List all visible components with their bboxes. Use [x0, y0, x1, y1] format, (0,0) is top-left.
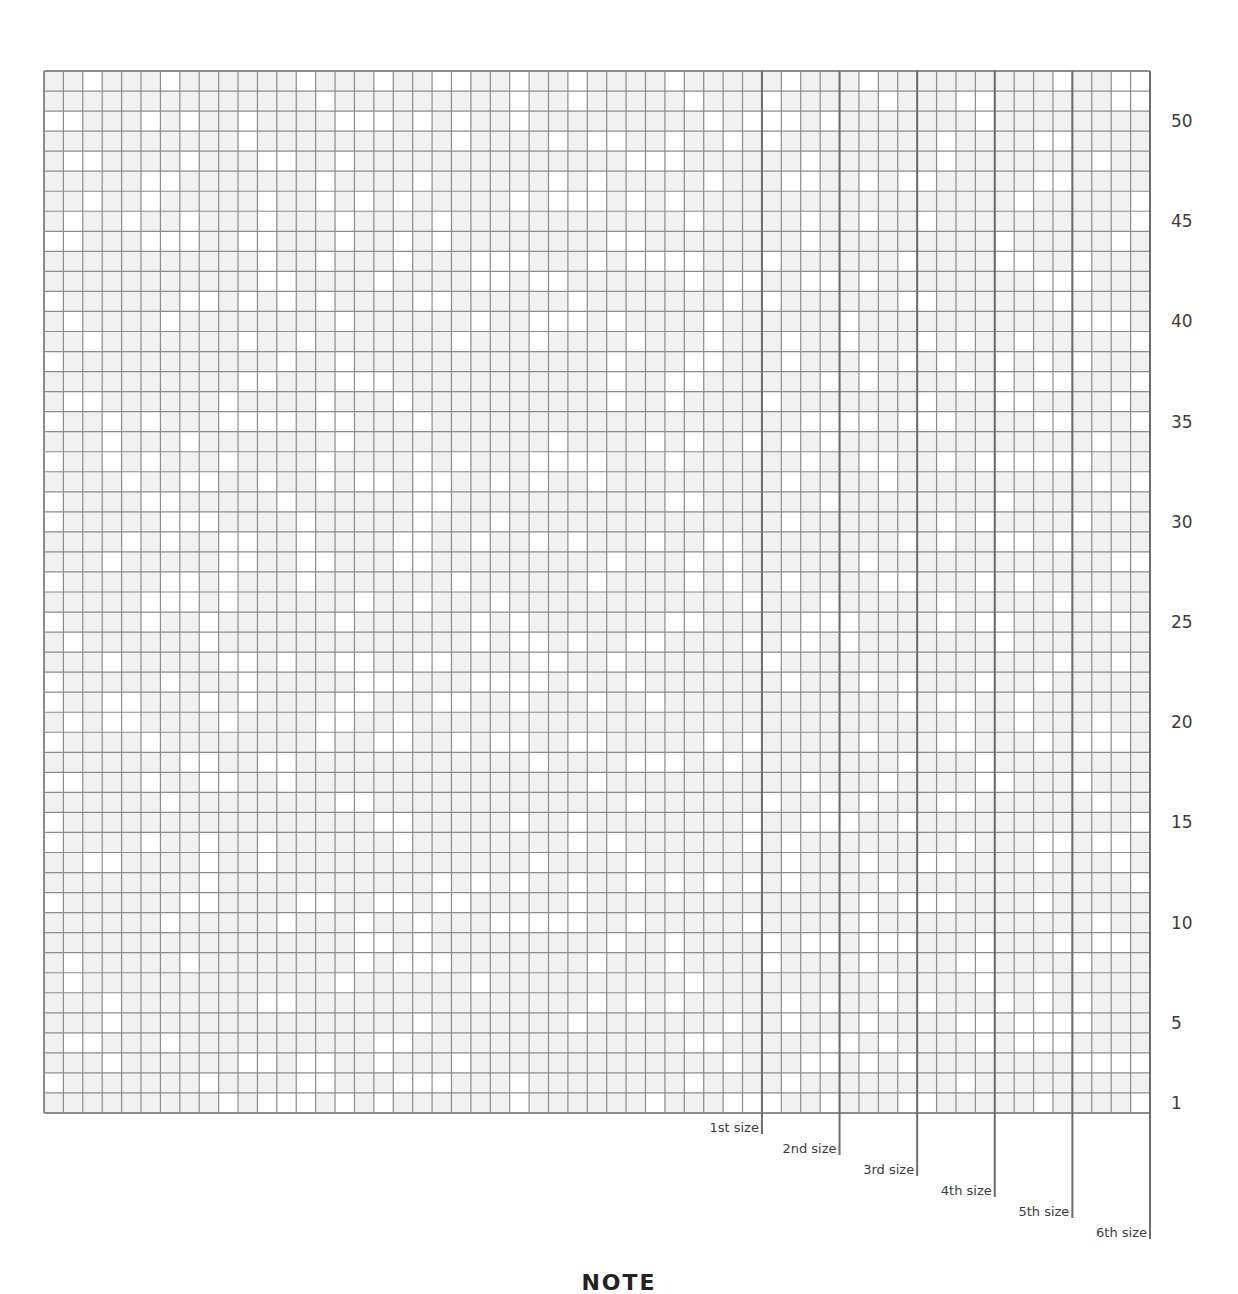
- row-number-label: 50: [1171, 111, 1193, 131]
- row-number-labels: 15101520253035404550: [1171, 111, 1193, 1113]
- size-label: 6th size: [1096, 1225, 1147, 1240]
- row-number-label: 45: [1171, 211, 1193, 231]
- row-number-label: 1: [1171, 1093, 1182, 1113]
- row-number-label: 25: [1171, 612, 1193, 632]
- size-label: 1st size: [709, 1120, 758, 1135]
- row-number-label: 10: [1171, 913, 1193, 933]
- row-number-label: 5: [1171, 1013, 1182, 1033]
- size-label: 4th size: [941, 1183, 992, 1198]
- size-label: 2nd size: [782, 1141, 836, 1156]
- size-label: 3rd size: [863, 1162, 914, 1177]
- row-number-label: 40: [1171, 311, 1193, 331]
- note-heading: NOTE: [0, 1270, 1238, 1294]
- size-label: 5th size: [1018, 1204, 1069, 1219]
- size-labels: 1st size2nd size3rd size4th size5th size…: [709, 1120, 1147, 1240]
- row-number-label: 30: [1171, 512, 1193, 532]
- row-number-label: 15: [1171, 812, 1193, 832]
- row-number-label: 35: [1171, 412, 1193, 432]
- row-number-label: 20: [1171, 712, 1193, 732]
